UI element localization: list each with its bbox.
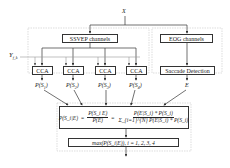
fraction-2-denominator: Σ_{i=1}^{N} P(E|S_i) * P(S_i) [117, 118, 189, 124]
formula-eq1: = [80, 115, 85, 121]
ssvep-channels-box: SSVEP channels [62, 34, 118, 43]
formula-lhs: P(S_i|E) [59, 115, 78, 121]
cca-output-4: P(S4) [129, 82, 142, 90]
input-x-label: X [122, 8, 126, 14]
formula-fraction-1: P(S_i E) P(E) [87, 111, 108, 124]
formula-fraction-2: P(E|S_i) * P(S_i) Σ_{i=1}^{N} P(E|S_i) *… [117, 111, 189, 124]
bayes-formula-box: P(S_i|E) = P(S_i E) P(E) = P(E|S_i) * P(… [59, 106, 189, 129]
eog-output-e: E [185, 82, 189, 88]
cca-box-3: CCA [95, 66, 116, 75]
cca-output-1: P(S1) [35, 82, 48, 90]
max-decision-box: max(P(S_i|E)), i = 1, 2, 3, 4 [68, 138, 179, 147]
cca-box-1: CCA [32, 66, 53, 75]
reference-signal-label: Yf_k [9, 52, 18, 60]
cca-box-2: CCA [63, 66, 84, 75]
cca-output-3: P(S3) [98, 82, 111, 90]
cca-box-4: CCA [126, 66, 147, 75]
fraction-1-denominator: P(E) [91, 118, 104, 124]
eog-channels-box: EOG channels [160, 34, 213, 43]
cca-output-2: P(S2) [66, 82, 79, 90]
saccade-detection-box: Saccade Detection [160, 66, 215, 75]
formula-eq2: = [110, 115, 115, 121]
